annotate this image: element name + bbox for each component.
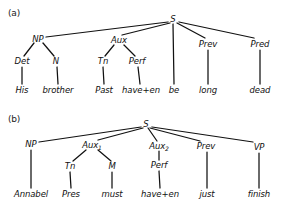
tree-node-label: brother xyxy=(43,85,74,95)
tree-node-label: Pred xyxy=(251,39,270,49)
tree-edge xyxy=(105,45,114,56)
tree-node-b-NP: NP xyxy=(25,139,36,149)
tree-edge xyxy=(159,171,160,188)
tree-node-a-N: N xyxy=(53,56,59,66)
tree-node-a-Tn: Tn xyxy=(98,56,108,66)
tree-node-label: Pres xyxy=(62,189,80,199)
tree-edge xyxy=(152,127,253,142)
tree-node-label: Tn xyxy=(98,56,108,66)
tree-node-label: just xyxy=(199,189,214,199)
tree-node-label: His xyxy=(16,85,29,95)
tree-node-label: N xyxy=(53,56,59,66)
tree-node-b-Tn: Tn xyxy=(65,161,75,171)
tree-node-label: VP xyxy=(254,142,265,152)
tree-node-subscript: 1 xyxy=(98,144,102,151)
tree-node-label: have+en xyxy=(141,189,179,199)
tree-node-label: Tn xyxy=(65,161,75,171)
tree-edge xyxy=(46,22,168,37)
tree-node-a-be: be xyxy=(169,85,179,95)
tree-edge xyxy=(173,24,174,84)
tree-node-label: S xyxy=(143,119,148,129)
tree-node-label: Det xyxy=(15,56,30,66)
tree-node-b-Pres: Pres xyxy=(62,189,80,199)
tree-edge xyxy=(43,43,54,56)
tree-node-label: Aux xyxy=(149,141,165,151)
tree-node-label: be xyxy=(169,85,179,95)
tree-node-label: Past xyxy=(95,85,113,95)
tree-node-label: dead xyxy=(250,85,271,95)
tree-node-b-just: just xyxy=(199,189,214,199)
tree-node-label: Annabel xyxy=(14,189,48,199)
tree-node-label: long xyxy=(199,85,217,95)
panel-label-a: (a) xyxy=(8,8,20,18)
tree-node-b-M: M xyxy=(108,161,115,171)
tree-node-label: have+en xyxy=(122,85,160,95)
tree-edges-layer xyxy=(0,0,283,208)
tree-node-a-His: His xyxy=(16,85,29,95)
tree-node-label: finish xyxy=(248,189,270,199)
tree-node-a-long: long xyxy=(199,85,217,95)
tree-node-label: must xyxy=(101,189,122,199)
tree-node-b-Annabel: Annabel xyxy=(14,189,48,199)
tree-node-label: NP xyxy=(32,34,43,44)
tree-node-label: Perf xyxy=(151,160,167,170)
tree-edge xyxy=(177,23,205,38)
tree-node-b-finish: finish xyxy=(248,189,270,199)
tree-node-b-Aux1: Aux1 xyxy=(82,140,102,150)
tree-node-b-VP: VP xyxy=(254,142,265,152)
tree-node-a-haveen: have+en xyxy=(122,85,160,95)
tree-node-a-NP: NP xyxy=(32,34,43,44)
tree-node-b-Prev: Prev xyxy=(197,141,215,151)
tree-node-b-Perf: Perf xyxy=(151,160,167,170)
tree-node-b-Aux2: Aux2 xyxy=(149,141,169,151)
tree-node-label: S xyxy=(170,14,175,24)
tree-edge xyxy=(103,67,104,84)
tree-node-a-dead: dead xyxy=(250,85,271,95)
tree-node-label: NP xyxy=(25,139,36,149)
tree-node-a-S: S xyxy=(170,14,175,24)
tree-node-a-brother: brother xyxy=(43,85,74,95)
tree-node-a-Prev: Prev xyxy=(199,39,217,49)
tree-edge xyxy=(73,150,86,161)
tree-node-a-Perf: Perf xyxy=(129,56,145,66)
tree-node-a-Aux: Aux xyxy=(111,35,127,45)
tree-edge xyxy=(98,150,111,161)
tree-node-label: Perf xyxy=(129,56,145,66)
tree-node-a-Pred: Pred xyxy=(251,39,270,49)
tree-edge xyxy=(70,172,71,188)
tree-node-label: Aux xyxy=(111,35,127,45)
tree-node-label: Prev xyxy=(199,39,217,49)
tree-node-a-Det: Det xyxy=(15,56,30,66)
tree-edge xyxy=(124,45,135,56)
tree-node-label: Aux xyxy=(82,140,98,150)
tree-node-b-must: must xyxy=(101,189,122,199)
panel-label-b: (b) xyxy=(8,114,20,124)
tree-node-b-S: S xyxy=(143,119,148,129)
tree-node-label: M xyxy=(108,161,115,171)
tree-node-label: Prev xyxy=(197,141,215,151)
tree-edge xyxy=(138,67,140,84)
tree-node-b-haveen: have+en xyxy=(141,189,179,199)
tree-node-a-Past: Past xyxy=(95,85,113,95)
tree-edge xyxy=(24,43,34,56)
tree-node-subscript: 2 xyxy=(165,145,169,152)
figure-canvas: (a)SNPAuxPrevPredDetNTnPerfHisbrotherPas… xyxy=(0,0,283,208)
tree-edge xyxy=(57,67,58,84)
